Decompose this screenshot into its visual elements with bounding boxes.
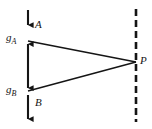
label-gap-gB: gB [6,84,16,98]
figure-canvas [0,0,152,129]
label-gap-gB-subscript: B [12,89,17,98]
ray-from-A-to-P [28,41,136,62]
optics-ray-diagram: A B P gA gB [0,0,152,129]
label-point-P: P [140,55,147,66]
label-object-A: A [35,19,42,30]
ray-from-B-to-P [28,62,136,91]
label-object-B: B [35,97,42,108]
label-gap-gA-subscript: A [12,37,17,46]
label-gap-gA: gA [6,32,16,46]
